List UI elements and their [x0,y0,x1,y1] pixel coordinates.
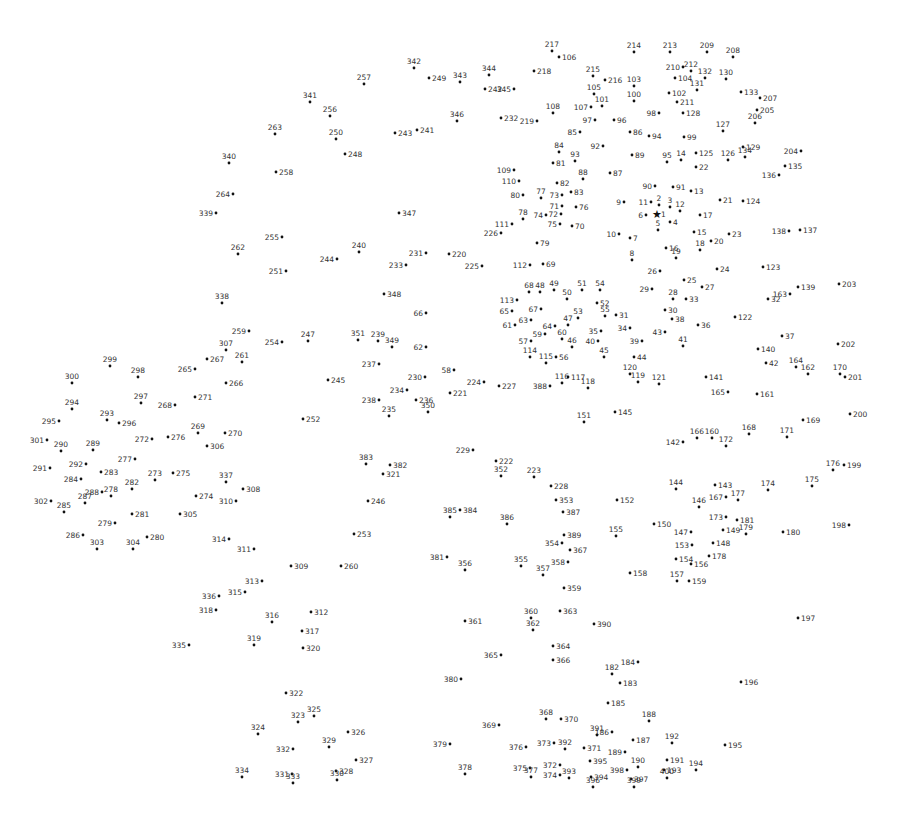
puzzle-point: 389 [563,531,582,540]
dot-marker [561,338,564,341]
dot-marker [789,293,792,296]
dot-marker [197,432,200,435]
point-number-label: 211 [680,98,695,107]
dot-marker [740,91,743,94]
point-number-label: 121 [652,373,667,382]
dot-marker [498,724,501,727]
point-number-label: 273 [148,469,163,478]
dot-marker [563,587,566,590]
dot-marker [666,161,669,164]
puzzle-point: 31 [615,311,629,320]
puzzle-point: 74 [533,211,547,220]
puzzle-point: 140 [757,345,776,354]
puzzle-point: 106 [558,53,577,62]
point-number-label: 92 [590,142,600,151]
dot-marker [727,159,730,162]
point-number-label: 160 [705,427,720,436]
dot-marker [82,534,85,537]
dot-marker [590,106,593,109]
dot-marker [511,223,514,226]
point-number-label: 41 [678,335,688,344]
puzzle-point: 150 [653,520,672,529]
point-number-label: 355 [514,555,529,564]
puzzle-point: 10 [606,230,620,239]
puzzle-point: 134 [738,146,753,158]
dot-marker [378,399,381,402]
puzzle-point: 295 [42,417,61,426]
point-number-label: 197 [801,614,816,623]
puzzle-point: 329 [322,736,337,748]
dot-marker [449,392,452,395]
point-number-label: 164 [789,356,804,365]
dot-marker [358,251,361,254]
dot-marker [453,369,456,372]
puzzle-point: 191 [666,756,685,765]
puzzle-point: 330 [330,769,345,781]
point-number-label: 144 [669,478,684,487]
puzzle-point: 238 [362,396,381,405]
puzzle-point: 361 [464,617,483,626]
puzzle-point: 338 [215,292,230,304]
point-number-label: 358 [551,558,566,567]
point-number-label: 329 [322,736,337,745]
puzzle-point: 270 [224,429,243,438]
puzzle-point: 356 [458,559,473,571]
point-number-label: 72 [548,210,558,219]
point-number-label: 196 [744,678,759,687]
dot-marker [600,330,603,333]
puzzle-point: 88 [578,168,588,180]
dot-marker [344,153,347,156]
point-number-label: 293 [100,409,115,418]
point-number-label: 393 [562,767,577,776]
point-number-label: 271 [198,393,213,402]
point-number-label: 124 [746,197,761,206]
point-number-label: 76 [579,203,589,212]
dot-marker [654,185,657,188]
point-number-label: 182 [605,663,620,672]
point-number-label: 165 [711,388,726,397]
dot-marker [648,720,651,723]
dot-marker [696,437,699,440]
puzzle-point: 325 [307,705,322,717]
puzzle-point: 285 [57,501,72,513]
puzzle-point: 283 [100,468,119,477]
point-number-label: 2 [657,194,662,203]
puzzle-point: 160 [705,427,720,439]
puzzle-point: 220 [448,250,467,259]
point-number-label: 390 [597,620,612,629]
point-number-label: 391 [590,724,605,733]
puzzle-point: 159 [688,577,707,586]
dot-marker [550,485,553,488]
puzzle-point: 184 [621,658,640,667]
point-number-label: 128 [686,109,701,118]
dot-marker [615,535,618,538]
puzzle-point: 151 [577,411,592,423]
point-number-label: 218 [537,67,552,76]
point-number-label: 345 [497,85,512,94]
point-number-label: 252 [306,415,321,424]
dot-marker [725,78,728,81]
point-number-label: 284 [64,475,79,484]
point-number-label: 251 [269,267,284,276]
puzzle-point: 42 [765,359,779,368]
puzzle-point: 339 [199,209,218,218]
point-number-label: 107 [574,103,589,112]
dot-marker [781,335,784,338]
puzzle-point: 256 [323,105,338,117]
puzzle-point: 314 [212,535,231,544]
point-number-label: 289 [86,439,101,448]
dot-marker [658,204,661,207]
dot-marker [552,112,555,115]
puzzle-point: 90 [642,182,656,191]
dot-marker [506,523,509,526]
puzzle-point: 279 [98,519,117,528]
dot-marker [511,310,514,313]
dot-marker [261,580,264,583]
point-number-label: 322 [289,689,304,698]
point-number-label: 214 [627,41,642,50]
puzzle-point: 93 [570,150,580,162]
point-number-label: 163 [773,290,788,299]
dot-marker [285,692,288,695]
dot-marker [624,751,627,754]
point-number-label: 312 [314,608,329,617]
